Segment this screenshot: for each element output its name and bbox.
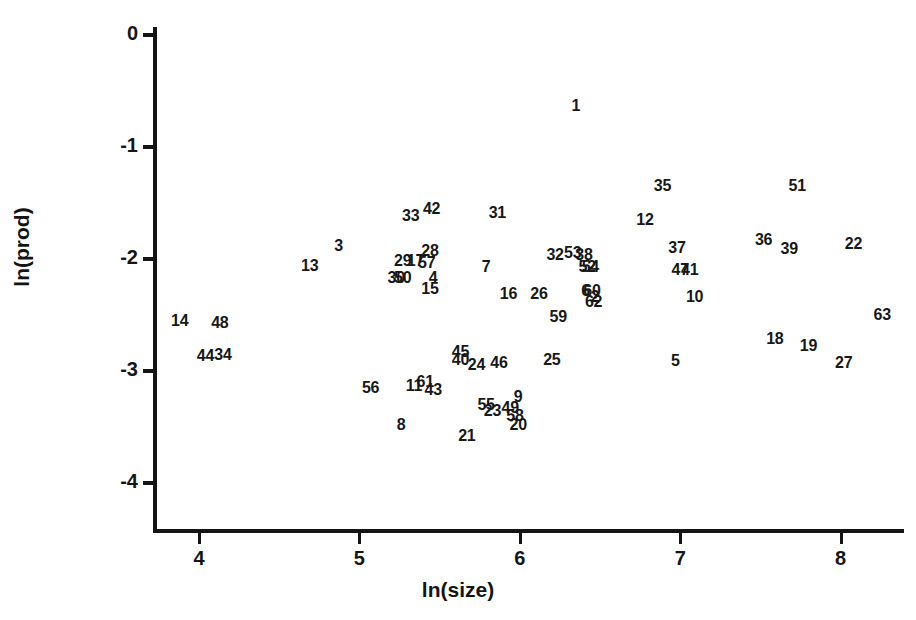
data-point-label: 32 — [546, 246, 563, 264]
y-axis-title: ln(prod) — [10, 177, 34, 317]
data-point-label: 51 — [789, 177, 806, 195]
y-tick-label: -4 — [96, 470, 138, 493]
data-point-label: 35 — [654, 177, 671, 195]
data-point-label: 47 — [671, 261, 688, 279]
data-point-label: 2 — [591, 288, 600, 306]
data-point-label: 28 — [421, 242, 438, 260]
data-point-label: 25 — [543, 351, 560, 369]
data-point-label: 49 — [501, 399, 518, 417]
y-tick — [143, 257, 154, 261]
data-point-label: 54 — [582, 258, 599, 276]
data-point-label: 5 — [671, 352, 680, 370]
data-point-label: 37 — [668, 239, 685, 257]
y-tick — [143, 481, 154, 485]
data-point-label: 14 — [171, 312, 188, 330]
data-point-label: 13 — [301, 257, 318, 275]
data-point-label: 62 — [585, 293, 602, 311]
y-axis-line — [153, 27, 157, 533]
data-point-label: 34 — [214, 346, 231, 364]
data-point-label: 36 — [755, 231, 772, 249]
y-tick-label: -1 — [96, 134, 138, 157]
x-tick — [358, 533, 361, 544]
x-tick — [840, 533, 843, 544]
data-point-label: 16 — [500, 285, 517, 303]
data-point-label: 40 — [452, 351, 469, 369]
data-point-label: 11 — [406, 377, 423, 395]
data-point-label: 39 — [781, 240, 798, 258]
data-point-label: 44 — [197, 347, 214, 365]
data-point-label: 17 — [407, 252, 424, 270]
x-tick-label: 4 — [184, 547, 214, 570]
data-point-label: 46 — [490, 354, 507, 372]
data-point-label: 50 — [394, 269, 411, 287]
data-point-label: 20 — [509, 416, 526, 434]
data-point-label: 57 — [418, 254, 435, 272]
data-point-label: 7 — [482, 258, 491, 276]
data-point-label: 9 — [514, 388, 523, 406]
x-tick — [679, 533, 682, 544]
x-axis-line — [153, 529, 904, 533]
data-point-label: 26 — [530, 285, 547, 303]
data-point-label: 10 — [686, 288, 703, 306]
data-point-label: 23 — [484, 402, 501, 420]
x-tick-label: 5 — [344, 547, 374, 570]
data-point-label: 56 — [362, 379, 379, 397]
data-point-label: 55 — [477, 396, 494, 414]
data-point-label: 6 — [581, 282, 590, 300]
data-point-label: 27 — [835, 354, 852, 372]
data-point-label: 58 — [506, 407, 523, 425]
y-tick — [143, 145, 154, 149]
data-point-label: 19 — [800, 337, 817, 355]
x-tick — [198, 533, 201, 544]
data-point-label: 33 — [402, 207, 419, 225]
y-tick-label: -2 — [96, 246, 138, 269]
y-tick-label: -3 — [96, 358, 138, 381]
data-point-label: 8 — [397, 416, 406, 434]
data-point-label: 31 — [489, 204, 506, 222]
y-tick-label: 0 — [96, 22, 138, 45]
data-point-label: 59 — [550, 308, 567, 326]
x-tick-label: 6 — [505, 547, 535, 570]
data-point-label: 60 — [583, 282, 600, 300]
x-tick-label: 8 — [826, 547, 856, 570]
x-tick-label: 7 — [665, 547, 695, 570]
data-point-label: 24 — [468, 356, 485, 374]
x-axis-title: ln(size) — [0, 578, 916, 602]
data-point-label: 30 — [388, 269, 405, 287]
plot-area: 1234567891011121314151617181920212223242… — [0, 0, 916, 620]
data-point-label: 22 — [845, 235, 862, 253]
y-tick — [143, 369, 154, 373]
data-point-label: 45 — [452, 343, 469, 361]
data-point-label: 12 — [636, 211, 653, 229]
data-point-label: 63 — [874, 306, 891, 324]
scatter-plot-figure: 0-1-2-3-4 45678 ln(size) ln(prod) 123456… — [0, 0, 916, 620]
data-point-label: 18 — [766, 330, 783, 348]
data-point-label: 4 — [429, 269, 438, 287]
data-point-label: 29 — [394, 252, 411, 270]
y-tick — [143, 33, 154, 37]
data-point-label: 15 — [421, 280, 438, 298]
data-point-label: 52 — [578, 258, 595, 276]
data-point-label: 3 — [334, 237, 343, 255]
data-point-label: 1 — [572, 97, 581, 115]
data-point-label: 43 — [424, 381, 441, 399]
x-tick — [519, 533, 522, 544]
data-point-label: 53 — [564, 244, 581, 262]
data-point-label: 41 — [681, 261, 698, 279]
data-point-label: 42 — [423, 200, 440, 218]
data-point-label: 61 — [416, 373, 433, 391]
data-point-label: 48 — [211, 314, 228, 332]
data-point-label: 38 — [575, 246, 592, 264]
data-point-label: 21 — [458, 427, 475, 445]
